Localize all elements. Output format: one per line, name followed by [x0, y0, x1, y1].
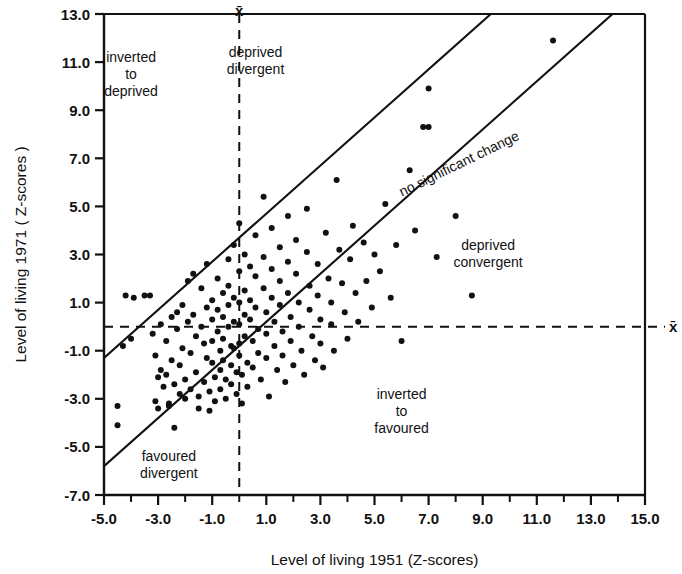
data-point	[182, 396, 188, 402]
data-point	[258, 377, 264, 383]
data-point	[177, 362, 183, 368]
data-point	[193, 333, 199, 339]
data-point	[312, 357, 318, 363]
data-point	[326, 276, 332, 282]
data-point	[242, 312, 248, 318]
data-point	[320, 365, 326, 371]
data-point	[453, 213, 459, 219]
data-point	[234, 391, 240, 397]
data-point	[207, 389, 213, 395]
data-point	[231, 319, 237, 325]
x-tick-label: -5.0	[91, 510, 117, 527]
data-point	[255, 350, 261, 356]
data-point	[263, 309, 269, 315]
data-point	[220, 290, 226, 296]
annotation-line: divergent	[227, 61, 285, 77]
data-point	[307, 283, 313, 289]
data-point	[434, 254, 440, 260]
data-point	[247, 297, 253, 303]
data-point	[217, 386, 223, 392]
data-point	[155, 374, 161, 380]
data-point	[201, 379, 207, 385]
data-point	[171, 425, 177, 431]
data-point	[393, 242, 399, 248]
data-point	[196, 405, 202, 411]
data-point	[285, 290, 291, 296]
annotation-no-significant-change: no significant change	[396, 127, 521, 199]
data-point	[242, 333, 248, 339]
data-point	[280, 328, 286, 334]
data-point	[342, 309, 348, 315]
data-point	[212, 398, 218, 404]
annotation-line: to	[396, 403, 408, 419]
x-tick-label: 9.0	[472, 510, 493, 527]
data-point	[344, 336, 350, 342]
data-point	[128, 336, 134, 342]
y-tick-label: 13.0	[61, 6, 90, 23]
data-point	[198, 324, 204, 330]
data-point	[188, 386, 194, 392]
data-point	[177, 391, 183, 397]
annotation-line: divergent	[140, 465, 198, 481]
data-point	[169, 357, 175, 363]
data-point	[288, 314, 294, 320]
data-point	[225, 283, 231, 289]
data-point	[317, 340, 323, 346]
data-point	[328, 321, 334, 327]
x-tick-label: 15.0	[630, 510, 659, 527]
data-point	[152, 353, 158, 359]
data-point	[239, 372, 245, 378]
data-point	[252, 232, 258, 238]
data-point	[115, 422, 121, 428]
data-point	[282, 379, 288, 385]
data-point	[296, 300, 302, 306]
data-point	[252, 273, 258, 279]
data-point	[212, 374, 218, 380]
data-point	[315, 261, 321, 267]
data-point	[147, 292, 153, 298]
data-point	[236, 340, 242, 346]
data-point	[228, 381, 234, 387]
data-point	[277, 244, 283, 250]
data-point	[217, 348, 223, 354]
data-point	[223, 396, 229, 402]
data-point	[469, 292, 475, 298]
data-point	[285, 259, 291, 265]
data-point	[115, 403, 121, 409]
data-point	[261, 285, 267, 291]
data-point	[236, 353, 242, 359]
data-point	[315, 292, 321, 298]
data-point	[266, 393, 272, 399]
data-point	[426, 86, 432, 92]
annotation-line: no significant change	[396, 127, 521, 199]
data-point	[426, 124, 432, 130]
data-point	[290, 362, 296, 368]
annotation-inverted-to-favoured: invertedtofavoured	[374, 386, 428, 436]
data-point	[169, 314, 175, 320]
data-point	[271, 319, 277, 325]
data-point	[263, 331, 269, 337]
data-point	[225, 302, 231, 308]
annotation-line: deprived	[104, 83, 158, 99]
annotation-line: deprived	[229, 44, 283, 60]
annotation-line: to	[125, 66, 137, 82]
annotation-line: favoured	[374, 420, 428, 436]
data-point	[190, 271, 196, 277]
data-point	[255, 326, 261, 332]
chart-canvas: -7.0-5.0-3.0-1.01.03.05.07.09.011.013.0-…	[0, 0, 682, 574]
data-point	[252, 304, 258, 310]
data-point	[236, 268, 242, 274]
data-point	[179, 302, 185, 308]
data-point	[223, 377, 229, 383]
data-point	[361, 239, 367, 245]
data-point	[201, 340, 207, 346]
data-point	[353, 290, 359, 296]
x-tick-label: 7.0	[418, 510, 439, 527]
x-tick-label: -1.0	[199, 510, 225, 527]
x-tick-label: 5.0	[364, 510, 385, 527]
data-point	[350, 223, 356, 229]
data-point	[301, 372, 307, 378]
data-point	[123, 292, 129, 298]
data-point	[231, 242, 237, 248]
data-point	[209, 338, 215, 344]
